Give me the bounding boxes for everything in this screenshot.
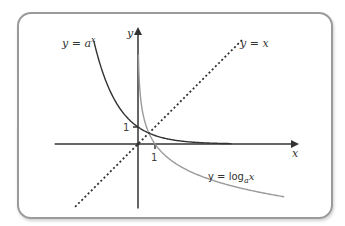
exp-curve-label-base: y = a: [61, 37, 91, 50]
tick-label-x-1: 1: [151, 152, 157, 163]
log-curve-label-pre: y = log: [208, 171, 244, 182]
graph-figure: y x y = ax y = x y = logax 1 1: [0, 0, 345, 226]
identity-line-label: y = x: [239, 37, 269, 50]
log-curve-label-arg: x: [249, 171, 255, 182]
tick-label-y-1: 1: [123, 122, 129, 133]
exp-curve-label-exponent: x: [91, 35, 96, 44]
y-axis-label: y: [126, 27, 134, 40]
origin-point: [136, 142, 139, 145]
exp-curve-label: y = ax: [61, 35, 96, 50]
x-axis-label: x: [292, 147, 299, 160]
